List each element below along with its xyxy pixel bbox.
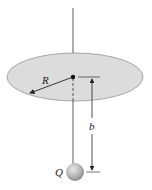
point-charge-sphere: [66, 163, 84, 181]
disk-charge-diagram: R b Q: [0, 0, 152, 190]
center-point: [71, 75, 75, 79]
distance-label: b: [89, 120, 95, 132]
radius-label: R: [41, 74, 49, 86]
charge-label: Q: [55, 166, 63, 178]
